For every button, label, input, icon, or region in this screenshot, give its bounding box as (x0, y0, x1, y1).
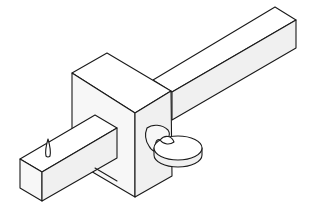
stem-rear (153, 7, 296, 120)
marking-gauge-diagram: Marking gauge (0, 0, 315, 224)
stem-front (20, 115, 117, 201)
marking-gauge-illustration (0, 0, 315, 224)
